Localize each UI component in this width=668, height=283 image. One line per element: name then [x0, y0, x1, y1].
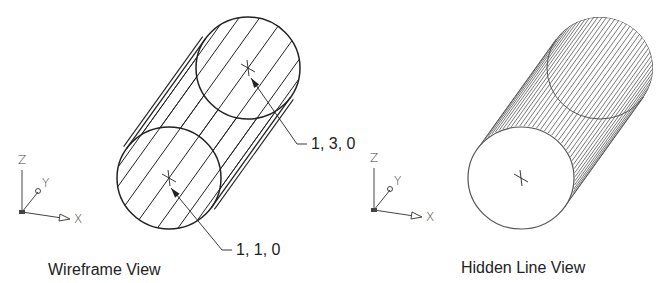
ucs-z-label: Z — [18, 154, 26, 166]
isoline — [118, 77, 197, 187]
surface-line — [499, 15, 582, 131]
isoline — [139, 110, 218, 220]
caption-hidden-line-view: Hidden Line View — [461, 260, 585, 276]
surface-line — [536, 13, 619, 128]
ucs-x-arrow-icon — [411, 212, 422, 219]
surface-line — [574, 53, 657, 169]
ucs-x-label: X — [74, 213, 82, 225]
ucs-y-axis — [22, 192, 38, 212]
coordinate-label-1-1-0: 1, 1, 0 — [236, 242, 280, 258]
isoline — [220, 79, 299, 189]
isoline — [220, 59, 299, 169]
surface-line — [574, 73, 657, 189]
surface-line — [568, 89, 651, 204]
surface-line — [564, 31, 647, 146]
surface-line — [573, 77, 656, 193]
surface-line — [566, 34, 649, 150]
arrowhead-icon — [251, 78, 259, 88]
coordinate-label-1-3-0: 1, 3, 0 — [311, 136, 355, 152]
ucs-origin-marker — [371, 208, 377, 212]
silhouette-line — [214, 99, 293, 209]
isoline — [118, 57, 197, 167]
surface-line — [575, 65, 658, 181]
ucs-x-arrow-icon — [59, 214, 70, 221]
surface-line — [558, 25, 641, 141]
ucs-x-label: X — [426, 211, 434, 223]
surface-line — [544, 16, 627, 132]
ucs-y-label: Y — [42, 177, 49, 189]
ucs-z-label: Z — [370, 152, 378, 164]
isoline — [213, 41, 292, 151]
surface-line — [511, 11, 594, 127]
surface-line — [520, 10, 603, 126]
isoline — [125, 95, 204, 205]
caption-wireframe-view: Wireframe View — [48, 262, 161, 278]
ucs-y-axis — [374, 190, 390, 210]
surface-line — [532, 12, 615, 128]
surface-line — [572, 45, 655, 161]
surface-line — [488, 21, 571, 137]
ucs-origin-marker — [19, 210, 25, 214]
wireframe-view — [19, 17, 307, 250]
surface-line — [492, 19, 575, 135]
silhouette-line — [124, 37, 203, 147]
arrowhead-icon — [171, 188, 180, 198]
surface-line — [575, 57, 658, 173]
ucs-x-axis — [22, 212, 62, 218]
surface-line — [507, 12, 590, 128]
ucs-y-label: Y — [394, 175, 401, 187]
ucs-x-axis — [374, 210, 414, 216]
hidden-line-view — [371, 10, 658, 229]
